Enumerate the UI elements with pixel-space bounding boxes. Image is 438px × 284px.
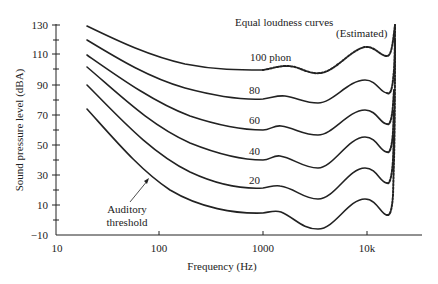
x-tick-label: 10 (52, 242, 64, 254)
y-tick-label: 30 (37, 169, 49, 181)
curve-20-phon (87, 85, 387, 199)
label-40-phon: 40 (249, 145, 261, 157)
y-tick-label: 70 (37, 109, 49, 121)
label-20-phon: 20 (249, 174, 261, 186)
curve-100-phon (87, 26, 263, 70)
y-tick-label: 90 (37, 79, 49, 91)
y-tick-labels: 130 110 90 70 50 30 10 −10 (31, 19, 49, 241)
y-axis (52, 24, 60, 235)
y-tick-label: −10 (31, 229, 49, 241)
chart-title: Equal loudness curves (235, 16, 333, 28)
curve-60-phon (87, 55, 387, 135)
y-axis-title: Sound pressure level (dBA) (13, 68, 26, 191)
x-tick-label: 100 (151, 242, 168, 254)
label-100-phon: 100 phon (250, 51, 292, 63)
y-tick-label: 130 (32, 19, 49, 31)
estimated-label: (Estimated) (336, 27, 388, 40)
label-60-phon: 60 (249, 114, 261, 126)
y-tick-label: 50 (37, 139, 49, 151)
arrow-icon (130, 178, 149, 202)
x-axis (56, 231, 422, 235)
curve-40-phon (87, 67, 387, 168)
x-tick-label: 1000 (252, 242, 275, 254)
x-tick-label: 10k (359, 242, 376, 254)
label-auditory: Auditory (107, 203, 147, 215)
y-tick-label: 10 (37, 199, 49, 211)
label-80-phon: 80 (249, 84, 261, 96)
x-tick-labels: 10 100 1000 10k (52, 242, 376, 254)
x-axis-title: Frequency (Hz) (187, 260, 257, 273)
equal-loudness-chart: 130 110 90 70 50 30 10 −10 10 100 1000 1… (0, 0, 438, 284)
y-tick-label: 110 (32, 48, 49, 60)
curve-80-phon (87, 40, 387, 103)
label-threshold: threshold (107, 216, 148, 228)
